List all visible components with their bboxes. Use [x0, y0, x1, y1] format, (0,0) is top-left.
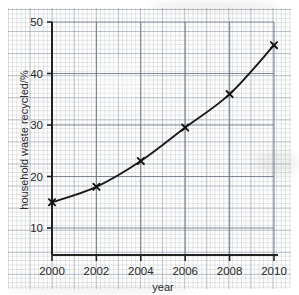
data-curve [52, 45, 274, 202]
x-tick-label-2010: 2010 [261, 265, 287, 277]
y-tick-label-30: 30 [30, 119, 43, 131]
y-axis-title: household waste recycled/% [18, 70, 30, 210]
chart-scene: 50 40 30 20 10 2000 2002 2004 2006 2008 … [0, 0, 299, 295]
y-tick-label-10: 10 [30, 222, 43, 234]
x-axis-title: year [152, 281, 174, 293]
y-tick-label-20: 20 [30, 171, 43, 183]
x-tick-label-2006: 2006 [172, 265, 198, 277]
x-tick-label-2000: 2000 [39, 265, 65, 277]
y-gridlines [52, 22, 274, 228]
x-tick-label-2008: 2008 [217, 265, 243, 277]
x-tick-label-2002: 2002 [84, 265, 110, 277]
data-markers [49, 42, 277, 205]
x-tick-label-2004: 2004 [128, 265, 154, 277]
x-gridlines [96, 22, 274, 255]
y-tick-label-50: 50 [30, 16, 43, 28]
y-tick-label-40: 40 [30, 68, 43, 80]
line-chart: 50 40 30 20 10 2000 2002 2004 2006 2008 … [0, 0, 299, 295]
